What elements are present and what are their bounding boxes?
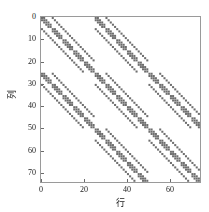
y-tick-mark xyxy=(41,62,44,63)
y-tick-label: 70 xyxy=(14,169,36,177)
y-tick-label: 20 xyxy=(14,58,36,66)
y-tick-label: 10 xyxy=(14,35,36,43)
y-tick-label: 50 xyxy=(14,124,36,132)
y-tick-mark xyxy=(41,151,44,152)
x-tick-mark xyxy=(84,179,85,182)
x-axis-label: 行 xyxy=(40,196,201,209)
y-tick-mark xyxy=(41,173,44,174)
y-tick-mark xyxy=(41,128,44,129)
y-tick-mark xyxy=(41,84,44,85)
x-tick-label: 0 xyxy=(39,186,43,194)
x-tick-mark xyxy=(127,179,128,182)
x-tick-label: 20 xyxy=(80,186,88,194)
x-tick-label: 60 xyxy=(166,186,174,194)
y-tick-label: 0 xyxy=(14,13,36,21)
x-tick-mark xyxy=(170,179,171,182)
plot-area xyxy=(40,16,201,183)
y-tick-mark xyxy=(41,39,44,40)
y-tick-mark xyxy=(41,17,44,18)
x-tick-label: 40 xyxy=(123,186,131,194)
y-tick-label: 60 xyxy=(14,147,36,155)
sparsity-pattern-canvas xyxy=(41,17,200,182)
x-tick-mark xyxy=(41,179,42,182)
y-tick-mark xyxy=(41,106,44,107)
spy-plot-figure: 0102030405060700204060 列 行 xyxy=(0,0,209,212)
y-axis-label: 列 xyxy=(5,80,18,110)
